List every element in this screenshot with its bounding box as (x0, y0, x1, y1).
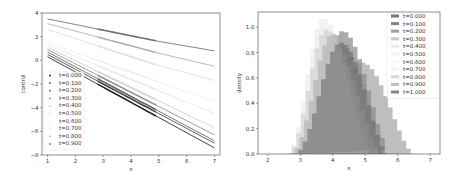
figure: 1234567−8−6−4−2024xcontrolt=0.000t=0.100… (0, 0, 462, 178)
x-tick-label: 5 (364, 157, 368, 163)
legend-marker (49, 75, 51, 77)
x-tick-label: 7 (429, 157, 433, 163)
y-tick-label: 2 (35, 34, 39, 40)
legend-swatch (391, 60, 399, 63)
legend-marker (49, 82, 51, 84)
y-tick-label: −4 (30, 105, 39, 111)
y-tick-label: −6 (30, 128, 39, 134)
legend-swatch (391, 45, 399, 48)
x-tick-label: 4 (129, 158, 133, 164)
legend-swatch (391, 83, 399, 86)
x-tick-label: 4 (331, 157, 335, 163)
legend-label: t=0.500 (403, 51, 426, 57)
x-tick-label: 6 (396, 157, 400, 163)
legend-label: t=0.500 (59, 110, 82, 116)
legend-label: t=0.200 (403, 28, 426, 34)
density-histogram: 2345670.00.20.40.60.81.0xdensityt=0.000t… (231, 0, 462, 178)
control-line-chart: 1234567−8−6−4−2024xcontrolt=0.000t=0.100… (0, 0, 231, 178)
series-line (48, 24, 215, 67)
legend-label: t=0.800 (403, 74, 426, 80)
legend-label: t=0.600 (403, 59, 426, 65)
legend-label: t=0.700 (59, 125, 82, 131)
legend-label: t=0.400 (59, 102, 82, 108)
x-tick-label: 5 (157, 158, 161, 164)
legend-swatch (391, 22, 399, 25)
series-scatter-band (98, 46, 156, 65)
legend-swatch (391, 15, 399, 18)
legend-swatch (391, 91, 399, 94)
x-tick-label: 7 (213, 158, 217, 164)
y-tick-label: 0.6 (246, 75, 255, 81)
x-tick-label: 3 (299, 157, 303, 163)
x-tick-label: 1 (46, 158, 50, 164)
x-tick-label: 3 (101, 158, 105, 164)
legend-marker (49, 97, 51, 99)
legend-label: t=0.400 (403, 43, 426, 49)
legend-label: t=0.900 (403, 81, 426, 87)
y-tick-label: 1.0 (246, 24, 255, 30)
y-tick-label: 0.4 (246, 100, 255, 106)
series-scatter-band (98, 79, 156, 110)
x-axis-label: x (129, 166, 133, 172)
legend-label: t=0.000 (403, 13, 426, 19)
legend-label: t=0.100 (403, 21, 426, 27)
legend-swatch (391, 68, 399, 71)
x-tick-label: 6 (185, 158, 189, 164)
legend-label: t=1.000 (403, 89, 426, 95)
legend-marker (49, 143, 51, 145)
legend-label: t=0.100 (59, 80, 82, 86)
legend-marker (49, 90, 51, 92)
legend-swatch (391, 53, 399, 56)
y-tick-label: −8 (30, 152, 39, 158)
y-tick-label: 4 (35, 10, 39, 16)
legend-label: t=0.300 (403, 36, 426, 42)
y-axis-label: density (236, 72, 243, 93)
legend-marker (49, 113, 51, 115)
legend-label: t=0.000 (59, 72, 82, 78)
legend-label: t=0.200 (59, 87, 82, 93)
legend-marker (49, 120, 51, 122)
y-tick-label: 0.2 (246, 126, 255, 132)
legend-label: t=0.700 (403, 66, 426, 72)
x-axis-label: x (347, 165, 351, 171)
legend-marker (49, 105, 51, 107)
legend-marker (49, 128, 51, 130)
legend-marker (49, 135, 51, 137)
legend-label: t=0.900 (59, 140, 82, 146)
legend-label: t=0.600 (59, 118, 82, 124)
y-tick-label: 0.8 (246, 50, 255, 56)
y-tick-label: 0 (35, 57, 39, 63)
y-tick-label: 0.0 (246, 151, 255, 157)
legend-label: t=0.300 (59, 95, 82, 101)
legend-swatch (391, 37, 399, 40)
y-axis-label: control (20, 74, 26, 94)
legend-swatch (391, 30, 399, 33)
legend-swatch (391, 75, 399, 78)
x-tick-label: 2 (266, 157, 270, 163)
y-tick-label: −2 (30, 81, 38, 87)
x-tick-label: 2 (74, 158, 78, 164)
legend-label: t=0.800 (59, 133, 82, 139)
